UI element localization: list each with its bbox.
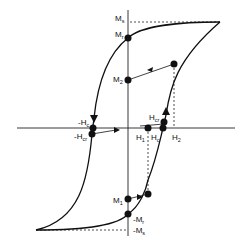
- point-neg-hcr: [89, 131, 96, 138]
- point-mr: [125, 35, 132, 42]
- label-hc: Hc: [151, 133, 160, 143]
- point-m2: [125, 77, 132, 84]
- label-neg-hc: -Hc: [78, 118, 89, 128]
- arrow-right-lower-icon: [137, 194, 143, 200]
- point-h1: [145, 125, 152, 132]
- point-neg-mr: [125, 211, 132, 218]
- label-neg-ms: -Ms: [133, 226, 145, 236]
- point-neg-hc: [90, 125, 97, 132]
- point-m1: [125, 196, 132, 203]
- label-m2: M2: [113, 75, 123, 85]
- recoil-line-center: [92, 130, 116, 134]
- recoil-line-upper: [128, 64, 174, 80]
- label-mr: Mr: [115, 30, 124, 40]
- label-h1: H1: [136, 133, 145, 143]
- label-m1: M1: [113, 196, 123, 206]
- point-hcr: [161, 119, 168, 126]
- point-hc: [160, 125, 167, 132]
- label-hcr: Hcr: [149, 113, 160, 123]
- arrow-up-icon: [162, 107, 170, 115]
- hysteresis-diagram: Ms Mr M2 -Hc -Hcr Hcr H1 Hc H2 M1 -Mr -M…: [0, 0, 248, 248]
- point-upper-branch: [171, 61, 178, 68]
- arrow-left-icon: [147, 67, 153, 72]
- arrow-down-icon: [90, 115, 98, 123]
- label-ms: Ms: [115, 14, 125, 24]
- label-neg-hcr: -Hcr: [74, 132, 87, 142]
- point-lower-branch: [145, 191, 152, 198]
- label-h2: H2: [172, 133, 181, 143]
- label-neg-mr: -Mr: [133, 215, 144, 225]
